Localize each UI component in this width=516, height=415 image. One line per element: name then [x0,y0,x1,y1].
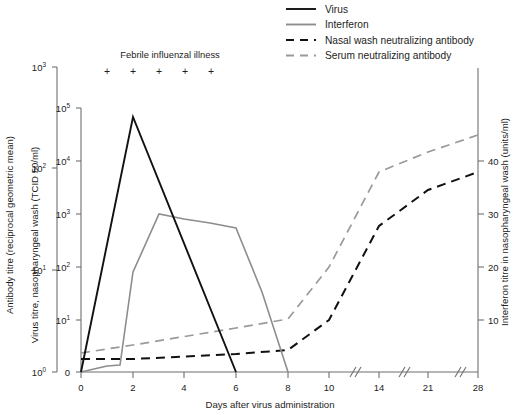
legend-label-interferon: Interferon [325,19,369,30]
legend-item-serum-antibody[interactable]: Serum neutralizing antibody [286,50,452,61]
left-virus-ticklabel-100: 102 [56,261,71,273]
legend-label-nasal-wash-antibody: Nasal wash neutralizing antibody [325,35,475,46]
right-interferon-axis: 40 30 20 10 Interferon titre in nasophar… [478,68,510,372]
febrile-illness-label: Febrile influenzal illness [120,49,220,60]
series-nasal-wash-neutralizing-antibody [81,172,478,359]
legend-label-serum-antibody: Serum neutralizing antibody [325,50,452,61]
left-antibody-ticklabel-1000: 103 [32,61,47,73]
bottom-ticklabel-21: 21 [423,382,434,393]
right-interferon-ticklabel-40: 40 [488,156,499,167]
febrile-mark-1: + [104,65,110,77]
influenza-virus-antibody-interferon-chart: Virus Interferon Nasal wash neutralizing… [0,0,516,415]
right-interferon-ticklabel-10: 10 [488,315,499,326]
left-virus-axis-title: Virus titre, nasopharyngeal wash (TCID 5… [29,147,40,344]
legend-item-interferon[interactable]: Interferon [286,19,369,30]
left-virus-titre-axis: 105 104 103 102 101 0 Virus titre, nasop… [29,102,81,378]
right-interferon-ticklabel-30: 30 [488,209,499,220]
series-virus [81,117,236,372]
chart-svg: Virus Interferon Nasal wash neutralizing… [0,0,516,415]
bottom-ticklabel-8: 8 [285,382,290,393]
bottom-days-axis: 0 2 4 6 8 10 14 21 28 Days after virus a… [78,367,483,410]
right-interferon-axis-title: Interferon titre in nasopharyngeal wash … [499,118,510,326]
bottom-axis-title: Days after virus administration [205,399,334,410]
bottom-ticklabel-0: 0 [78,382,83,393]
left-antibody-ticklabel-1: 100 [32,366,47,378]
febrile-illness-annotation: Febrile influenzal illness + + + + + [104,49,220,77]
left-virus-ticklabel-100000: 105 [56,102,71,114]
bottom-ticklabel-4: 4 [181,382,186,393]
febrile-mark-5: + [208,65,214,77]
left-antibody-axis-title: Antibody titre (reciprocal geometric mea… [4,136,15,314]
series-serum-neutralizing-antibody [81,135,478,353]
left-virus-ticklabel-10000: 104 [56,155,71,167]
bottom-ticklabel-6: 6 [233,382,238,393]
bottom-ticklabel-2: 2 [130,382,135,393]
left-virus-ticklabel-10: 101 [56,314,71,326]
bottom-ticklabel-14: 14 [374,382,385,393]
bottom-ticklabel-28: 28 [473,382,484,393]
right-interferon-ticklabel-20: 20 [488,262,499,273]
legend-item-nasal-wash-antibody[interactable]: Nasal wash neutralizing antibody [286,35,475,46]
legend-label-virus: Virus [325,4,348,15]
left-virus-ticklabel-0: 0 [65,367,70,378]
series-group [81,117,478,372]
febrile-mark-3: + [156,65,162,77]
bottom-ticklabel-10: 10 [324,382,335,393]
legend-item-virus[interactable]: Virus [286,4,348,15]
left-virus-ticklabel-1000: 103 [56,208,71,220]
febrile-mark-4: + [182,65,188,77]
legend: Virus Interferon Nasal wash neutralizing… [286,4,475,62]
febrile-mark-2: + [130,65,136,77]
